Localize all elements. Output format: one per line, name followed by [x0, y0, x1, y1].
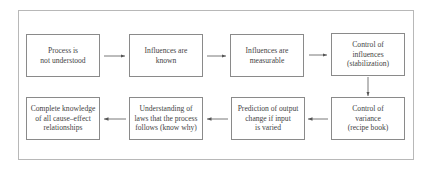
box-influences-measurable: Influences are measurable [230, 34, 304, 77]
box-complete-knowledge: Complete knowledge of all cause–effect r… [26, 97, 100, 140]
box-understanding-of-laws: Understanding of laws that the process f… [129, 97, 203, 140]
box-prediction-of-output: Prediction of output change if input is … [231, 97, 305, 140]
box-control-of-influences: Control of influences (stabilization) [331, 33, 405, 76]
box-influences-known: Influences are known [129, 34, 203, 77]
box-process-not-understood: Process is not understood [26, 34, 100, 77]
box-control-of-variance: Control of variance (recipe book) [331, 97, 405, 140]
